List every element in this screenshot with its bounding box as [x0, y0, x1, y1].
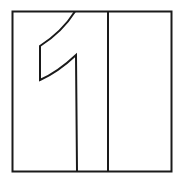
numeral-one-outline	[40, 12, 77, 172]
numeral-one-diagram	[0, 0, 184, 180]
outer-box	[13, 12, 172, 172]
